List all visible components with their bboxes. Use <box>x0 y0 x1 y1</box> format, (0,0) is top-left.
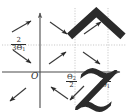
z-hat-glyph: z <box>33 7 130 112</box>
tick-label-2-over-3theta1-numerator: 2 <box>11 37 26 44</box>
tick-label-theta2-over-2-numerator: Θ2 <box>66 74 77 81</box>
arrow-r3-c1 <box>10 88 26 101</box>
tick-label-2-over-3theta1-denominator-sub: 1 <box>22 46 25 52</box>
y-hat-glyph: y <box>119 73 130 112</box>
z-axis-label-text: z <box>75 38 118 112</box>
tick-label-2-over-3theta1: 2 3Θ1 <box>11 36 26 52</box>
vector-field-figure: z y O 2 3Θ1 Θ2 2 1 Θ1 <box>0 0 130 112</box>
tick-label-1-over-theta1-denominator: Θ1 <box>100 81 111 89</box>
tick-label-1-over-theta1-denominator-sub: 1 <box>107 83 110 89</box>
tick-label-theta2-over-2-denominator: 2 <box>66 81 77 89</box>
tick-label-2-over-3theta1-denominator: 3Θ1 <box>11 44 26 52</box>
tick-label-theta2-over-2: Θ2 2 <box>66 73 77 89</box>
arrow-r1-c1 <box>12 21 31 32</box>
tick-label-2-over-3theta1-denominator-base: 3Θ <box>12 44 22 52</box>
tick-label-1-over-theta1: 1 Θ1 <box>100 73 111 89</box>
origin-label: O <box>31 72 38 81</box>
tick-label-theta2-over-2-numerator-sub: 2 <box>73 75 76 81</box>
tick-label-1-over-theta1-numerator: 1 <box>100 74 111 81</box>
